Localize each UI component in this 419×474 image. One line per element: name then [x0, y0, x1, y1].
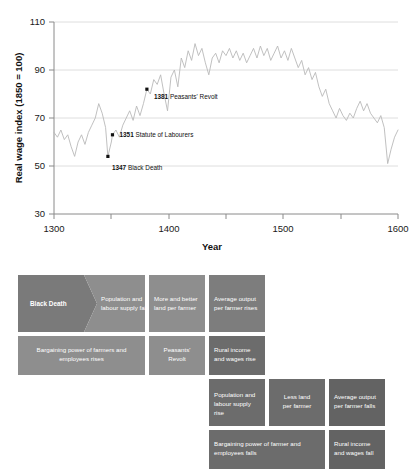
flow-box-peasants-revolt-line2: Revolt	[168, 355, 186, 362]
real-wage-chart-figure: 110 90 70 50 30 1300 1400 1500 1600 Year…	[0, 0, 419, 262]
y-tick-label-90: 90	[34, 64, 45, 75]
gridlines	[54, 22, 398, 166]
x-tick-label-1300: 1300	[43, 223, 64, 234]
annotation-label-1347: 1347 Black Death	[112, 164, 163, 171]
flow-box-population-rise-line2: labour supply	[214, 400, 252, 407]
flow-box-avg-output-falls-line2: per farmer falls	[334, 402, 375, 409]
flow-box-rural-income-rise-line1: Rural income	[214, 346, 251, 353]
flow-row-3: Population and labour supply rise Less l…	[209, 379, 385, 434]
flow-box-avg-output-rises-line2: per farmer rises	[214, 304, 257, 311]
x-tick-marks	[54, 214, 398, 219]
y-tick-label-70: 70	[34, 112, 45, 123]
x-tick-label-1600: 1600	[387, 223, 408, 234]
annotation-marker-1351	[111, 133, 114, 136]
real-wage-line-series	[54, 44, 398, 164]
flow-box-black-death-label: Black Death	[30, 300, 67, 307]
flow-box-population-fall-line2: labour supply fall	[101, 304, 147, 311]
flow-box-bargaining-rises-line1: Bargaining power of farmers and	[37, 346, 127, 353]
x-axis-title: Year	[202, 241, 222, 252]
flow-box-population-rise-line1: Population and	[214, 391, 256, 398]
y-tick-label-50: 50	[34, 160, 45, 171]
flow-row-4: Bargaining power of farmer and employees…	[209, 430, 385, 469]
x-tick-label-1400: 1400	[158, 223, 179, 234]
flow-row-2: Bargaining power of farmers and employee…	[18, 336, 265, 383]
flow-box-rural-income-fall-line2: and wages fall	[334, 449, 374, 456]
flow-box-less-land-line2: per farmer	[283, 402, 312, 409]
flow-box-less-land-line1: Less land	[284, 393, 311, 400]
flow-box-avg-output-rises-line1: Average output	[214, 295, 256, 302]
y-tick-label-30: 30	[34, 208, 45, 219]
flow-box-bargaining-falls-line1: Bargaining power of farmer and	[214, 440, 301, 447]
flow-box-rural-income-fall-line1: Rural income	[334, 440, 371, 447]
flow-box-bargaining-rises-line2: employees rises	[59, 355, 104, 362]
chart-canvas: 110 90 70 50 30 1300 1400 1500 1600 Year…	[0, 0, 419, 262]
annotation-label-1351: 1351 Statute of Labourers	[119, 131, 193, 138]
flow-box-peasants-revolt-line1: Peasants'	[164, 346, 191, 353]
flow-box-population-fall-line1: Population and	[101, 295, 143, 302]
flow-row-1: Black Death Population and labour supply…	[18, 275, 265, 340]
y-axis-title: Real wage index (1850 = 100)	[13, 53, 24, 184]
y-tick-marks	[49, 22, 54, 214]
annotation-label-1381: 1381 Peasants' Revolt	[154, 93, 218, 100]
annotation-marker-1347	[106, 155, 109, 158]
x-tick-label-1500: 1500	[272, 223, 293, 234]
flow-box-more-land-line2: land per farmer	[154, 304, 196, 311]
flow-box-avg-output-falls-line1: Average output	[334, 393, 376, 400]
flow-box-more-land-line1: More and better	[154, 295, 198, 302]
flow-box-population-rise-line3: rise	[214, 409, 225, 416]
y-tick-label-110: 110	[30, 16, 45, 27]
black-death-flow-diagram: Black Death Population and labour supply…	[0, 262, 419, 474]
flow-canvas: Black Death Population and labour supply…	[0, 262, 419, 474]
flow-box-rural-income-rise-line2: and wages rise	[214, 355, 256, 362]
annotation-marker-1381	[145, 88, 148, 91]
flow-box-bargaining-falls-line2: employees falls	[214, 449, 257, 456]
chart-annotations: 1347 Black Death1351 Statute of Labourer…	[106, 88, 218, 172]
